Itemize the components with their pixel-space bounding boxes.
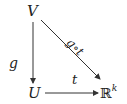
node-v: V: [27, 4, 38, 19]
node-rk-exponent: k: [112, 83, 117, 93]
node-u: U: [28, 86, 41, 101]
label-g: g: [9, 56, 18, 70]
label-t: t: [72, 73, 77, 86]
node-rk-base: ℝ: [100, 85, 112, 101]
node-rk: ℝk: [100, 86, 117, 100]
